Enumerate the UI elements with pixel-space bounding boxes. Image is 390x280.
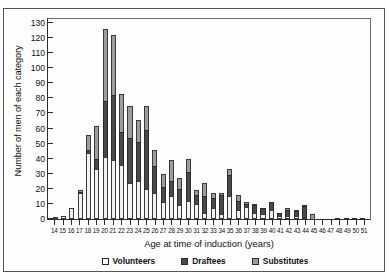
x-axis-ticks xyxy=(47,220,371,225)
x-axis-tick xyxy=(364,220,365,225)
bar-segment-volunteers xyxy=(260,214,265,219)
bar-segment-draftees xyxy=(119,132,124,165)
x-axis-tick-label: 20 xyxy=(100,226,108,238)
x-axis-tick-label: 33 xyxy=(209,226,217,238)
x-axis-tick-slot xyxy=(201,220,209,225)
x-axis-tick xyxy=(71,220,72,225)
plot-area: 0102030405060708090100110120130 xyxy=(47,18,371,220)
bar-slot xyxy=(359,19,367,219)
bar-segment-volunteers xyxy=(252,213,257,219)
x-axis-tick xyxy=(180,220,181,225)
x-axis-tick xyxy=(297,220,298,225)
x-axis-tick xyxy=(88,220,89,225)
bar-segment-draftees xyxy=(186,172,191,201)
x-axis-tick xyxy=(188,220,189,225)
stacked-bar xyxy=(194,190,199,219)
x-axis-tick-label: 15 xyxy=(58,226,66,238)
bar-slot xyxy=(267,19,275,219)
x-axis-tick-label: 31 xyxy=(192,226,200,238)
bar-slot xyxy=(76,19,84,219)
x-axis-tick-label: 27 xyxy=(159,226,167,238)
x-axis-tick-label: 24 xyxy=(134,226,142,238)
x-axis-tick xyxy=(205,220,206,225)
x-axis-tick-label: 39 xyxy=(259,226,267,238)
x-axis-tick xyxy=(322,220,323,225)
x-axis-tick xyxy=(289,220,290,225)
x-axis-tick-slot xyxy=(75,220,83,225)
bar-series-group xyxy=(48,19,370,219)
x-axis-tick-slot xyxy=(142,220,150,225)
y-axis-tick-label: 60 xyxy=(35,124,45,134)
x-axis-tick-slot xyxy=(209,220,217,225)
bar-segment-volunteers xyxy=(119,165,124,219)
bar-segment-volunteers xyxy=(144,189,149,219)
y-axis-tick-label: 80 xyxy=(35,93,45,103)
bar-segment-substitutes xyxy=(111,35,116,95)
bar-segment-volunteers xyxy=(61,216,66,219)
x-axis-tick-label: 17 xyxy=(75,226,83,238)
x-axis-tick xyxy=(104,220,105,225)
y-axis-tick-label: 40 xyxy=(35,154,45,164)
x-axis-tick-slot xyxy=(276,220,284,225)
x-axis-tick-label: 18 xyxy=(84,226,92,238)
bar-segment-draftees xyxy=(211,198,216,209)
x-axis-tick-slot xyxy=(109,220,117,225)
bar-slot xyxy=(59,19,67,219)
bar-slot xyxy=(317,19,325,219)
bar-segment-draftees xyxy=(252,205,257,213)
bar-segment-volunteers xyxy=(211,208,216,219)
legend-item-substitutes: Substitutes xyxy=(252,256,309,266)
bar-segment-volunteers xyxy=(69,208,74,219)
stacked-bar xyxy=(227,169,232,219)
x-axis-tick xyxy=(331,220,332,225)
x-axis-tick xyxy=(163,220,164,225)
stacked-bar xyxy=(244,202,249,219)
stacked-bar xyxy=(219,193,224,219)
stacked-bar xyxy=(119,94,124,219)
bar-segment-volunteers xyxy=(103,157,108,219)
bar-segment-draftees xyxy=(152,166,157,193)
bar-segment-substitutes xyxy=(310,214,315,219)
bar-segment-volunteers xyxy=(302,217,307,219)
bar-slot xyxy=(192,19,200,219)
bar-segment-draftees xyxy=(227,175,232,196)
bar-segment-substitutes xyxy=(86,135,91,150)
x-axis-tick-labels: 1415161718192021222324252627282930313233… xyxy=(47,226,371,238)
bar-segment-volunteers xyxy=(219,214,224,219)
x-axis-tick xyxy=(63,220,64,225)
x-axis-tick xyxy=(247,220,248,225)
x-axis-tick xyxy=(264,220,265,225)
x-axis-tick-slot xyxy=(318,220,326,225)
x-axis-tick xyxy=(138,220,139,225)
bar-segment-volunteers xyxy=(127,183,132,219)
x-axis-title: Age at time of induction (years) xyxy=(47,238,371,249)
stacked-bar xyxy=(352,218,357,220)
bar-segment-volunteers xyxy=(94,169,99,219)
x-axis-tick-label: 38 xyxy=(251,226,259,238)
bar-segment-volunteers xyxy=(227,196,232,219)
bar-segment-substitutes xyxy=(103,29,108,101)
bar-segment-substitutes xyxy=(94,126,99,159)
x-axis-tick-label: 28 xyxy=(167,226,175,238)
x-axis-tick xyxy=(238,220,239,225)
bar-slot xyxy=(259,19,267,219)
bar-slot xyxy=(334,19,342,219)
y-axis-tick-label: 90 xyxy=(35,78,45,88)
x-axis-tick xyxy=(146,220,147,225)
y-axis-tick-label: 0 xyxy=(40,214,45,224)
bar-segment-substitutes xyxy=(169,160,174,181)
x-axis-tick-label: 16 xyxy=(67,226,75,238)
x-axis-tick xyxy=(113,220,114,225)
bar-slot xyxy=(234,19,242,219)
stacked-bar xyxy=(360,218,365,220)
bar-slot xyxy=(226,19,234,219)
bar-slot xyxy=(284,19,292,219)
x-axis-tick xyxy=(305,220,306,225)
x-axis-tick-slot xyxy=(326,220,334,225)
bar-slot xyxy=(118,19,126,219)
x-axis-tick-label: 22 xyxy=(117,226,125,238)
y-axis-tick-label: 50 xyxy=(35,139,45,149)
bar-slot xyxy=(350,19,358,219)
bar-slot xyxy=(292,19,300,219)
stacked-bar xyxy=(294,210,299,219)
